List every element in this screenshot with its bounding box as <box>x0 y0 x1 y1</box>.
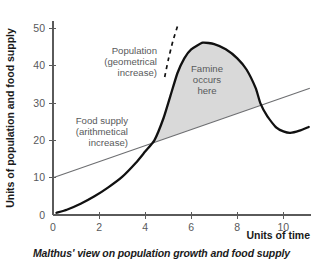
y-tick-label: 0 <box>39 209 45 221</box>
chart-plot: 01020304050 0246810 Units of population … <box>0 0 323 270</box>
x-tick-label: 2 <box>96 221 102 233</box>
annot-food-line: Food supply <box>76 115 128 126</box>
x-tick-label: 6 <box>188 221 194 233</box>
y-tick-label: 20 <box>33 134 45 146</box>
x-tick-label: 4 <box>142 221 148 233</box>
chart-caption: Malthus' view on population growth and f… <box>0 247 323 259</box>
y-tick-label: 30 <box>33 97 45 109</box>
y-tick-label: 10 <box>33 171 45 183</box>
y-tick-label: 40 <box>33 59 45 71</box>
annot-food-line: (arithmetical <box>76 126 128 137</box>
annot-population-line: (geometrical <box>104 56 157 67</box>
chart-figure: 01020304050 0246810 Units of population … <box>0 0 323 270</box>
food-supply-annotation: Food supply(arithmeticalincrease) <box>76 115 128 148</box>
annot-famine-line: Famine <box>191 63 223 74</box>
y-tick-label: 50 <box>33 22 45 34</box>
population-projection-dashed-line <box>165 23 179 77</box>
x-tick-label: 0 <box>50 221 56 233</box>
y-axis-title: Units of population and food supply <box>4 28 16 208</box>
x-axis-title: Units of time <box>246 229 310 241</box>
annot-population-line: increase) <box>118 67 157 78</box>
annot-food-line: increase) <box>89 137 128 148</box>
annot-population-line: Population <box>112 45 157 56</box>
annot-famine-line: here <box>197 85 216 96</box>
population-annotation: Population(geometricalincrease) <box>104 45 157 78</box>
x-tick-label: 8 <box>234 221 240 233</box>
annot-famine-line: occurs <box>193 74 221 85</box>
